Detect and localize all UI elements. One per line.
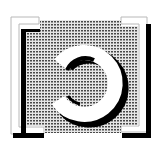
framed-ring-icon: Halftone framed ring icon — [0, 0, 158, 153]
ring-icon-graphic — [0, 0, 158, 153]
